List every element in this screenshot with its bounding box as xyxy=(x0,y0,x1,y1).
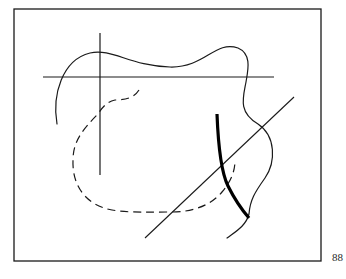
page-number: 88 xyxy=(332,251,343,263)
frame-border xyxy=(14,9,321,261)
dashed-curve xyxy=(73,90,235,212)
thin-wavy-curve xyxy=(56,47,273,238)
diagonal-line xyxy=(145,97,294,238)
thick-curve xyxy=(217,114,249,218)
diagram-figure xyxy=(0,0,346,279)
